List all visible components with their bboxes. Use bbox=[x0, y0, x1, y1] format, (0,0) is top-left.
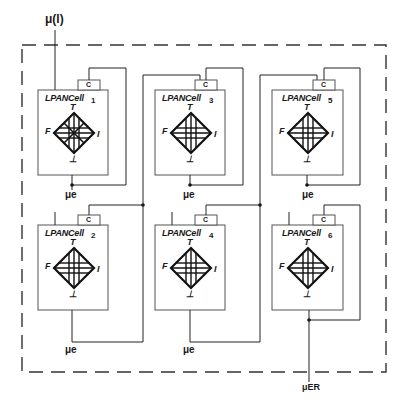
cell-3-connector-label: C bbox=[203, 81, 208, 88]
cell-1-output-label: μe bbox=[65, 190, 77, 200]
cell-2-connector-wire bbox=[89, 205, 143, 215]
cell-6-pole-left: F bbox=[279, 262, 285, 271]
cell-4-pole-top: T bbox=[187, 238, 193, 247]
diagram-canvas bbox=[0, 0, 402, 408]
cell-6-pole-top: T bbox=[304, 238, 310, 247]
cell-2-pole-top: T bbox=[70, 238, 76, 247]
cell-1-pole-top: T bbox=[70, 103, 76, 112]
cell-3-title: LPANCell bbox=[162, 94, 201, 103]
cell-6-title: LPANCell bbox=[282, 229, 321, 238]
cell-1-pole-left: F bbox=[45, 127, 51, 136]
cell-4-connector-wire bbox=[206, 205, 260, 215]
cell-4-title: LPANCell bbox=[162, 229, 201, 238]
cell-4-pole-right: I bbox=[214, 265, 217, 274]
cell-6-pole-bottom: ⊥ bbox=[303, 290, 311, 299]
cell-3-pole-right: I bbox=[214, 130, 217, 139]
cell-5-pole-bottom: ⊥ bbox=[303, 155, 311, 164]
cell-3-pole-bottom: ⊥ bbox=[186, 155, 194, 164]
cell-5-pole-left: F bbox=[279, 127, 285, 136]
cell-1-pole-bottom: ⊥ bbox=[69, 155, 77, 164]
cell-5-pole-right: I bbox=[331, 130, 334, 139]
cell-2-output-label: μe bbox=[65, 345, 77, 355]
cell-2-title: LPANCell bbox=[45, 229, 84, 238]
cell-4-pole-left: F bbox=[162, 262, 168, 271]
cell-2-pole-left: F bbox=[45, 262, 51, 271]
cell-1-pole-right: I bbox=[97, 130, 100, 139]
cell-5-number: 5 bbox=[328, 97, 332, 105]
cell-3-output-label: μe bbox=[183, 190, 195, 200]
cell-1-title: LPANCell bbox=[45, 94, 84, 103]
cell-5-title: LPANCell bbox=[282, 94, 321, 103]
cell-6-pole-right: I bbox=[331, 265, 334, 274]
cell-2-connector-label: C bbox=[86, 216, 91, 223]
cell-5-connector-label: C bbox=[321, 81, 326, 88]
cell-6-number: 6 bbox=[328, 232, 332, 240]
cell-4-pole-bottom: ⊥ bbox=[186, 290, 194, 299]
cell-4-output-label: μe bbox=[183, 345, 195, 355]
cell-3-number: 3 bbox=[209, 97, 213, 105]
cell-3-pole-left: F bbox=[162, 127, 168, 136]
cell-2-pole-bottom: ⊥ bbox=[69, 290, 77, 299]
cell-2-number: 2 bbox=[91, 232, 95, 240]
cell-4-connector-label: C bbox=[203, 216, 208, 223]
input-label: μ(l) bbox=[45, 13, 64, 25]
cell-1-connector-label: C bbox=[86, 81, 91, 88]
cell-5-output-label: μe bbox=[302, 190, 314, 200]
cell-6-connector-label: C bbox=[321, 216, 326, 223]
cell-4-number: 4 bbox=[209, 232, 213, 240]
cell-2-pole-right: I bbox=[97, 265, 100, 274]
output-label: μER bbox=[302, 383, 320, 392]
cell-1-number: 1 bbox=[91, 97, 95, 105]
cell-5-pole-top: T bbox=[304, 103, 310, 112]
cell-3-pole-top: T bbox=[187, 103, 193, 112]
